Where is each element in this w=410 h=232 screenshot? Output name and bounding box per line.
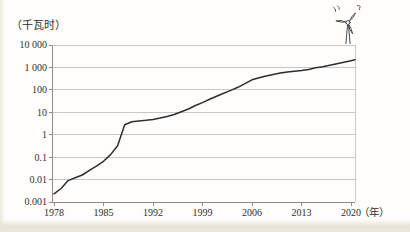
y-tick-label: 100 (32, 84, 47, 95)
chart-page: 10 0001 0001001010.10.010.00119781985199… (0, 0, 410, 232)
wind-turbine-icon (334, 6, 361, 44)
x-tick-label: 1992 (143, 207, 163, 218)
x-axis-unit-label: （年） (359, 206, 389, 218)
x-tick-label: 1999 (193, 207, 213, 218)
tick-labels: 10 0001 0001001010.10.010.00119781985199… (20, 39, 362, 218)
y-tick-label: 0.1 (35, 152, 48, 163)
x-tick-label: 2013 (292, 207, 312, 218)
y-tick-label: 1 (42, 129, 47, 140)
x-tick-label: 2006 (242, 207, 262, 218)
y-tick-label: 1 000 (25, 62, 48, 73)
x-tick-label: 2020 (341, 207, 361, 218)
x-tick-label: 1978 (44, 207, 64, 218)
data-curve (54, 60, 355, 194)
turbine-blade (336, 19, 346, 23)
y-tick-label: 0.01 (30, 174, 48, 185)
wind-power-line-chart: 10 0001 0001001010.10.010.00119781985199… (0, 0, 410, 232)
y-tick-label: 0.001 (25, 196, 48, 207)
y-tick-label: 10 000 (20, 39, 48, 50)
y-axis-unit-label: （千瓦时） (11, 19, 66, 31)
x-tick-label: 1985 (94, 207, 114, 218)
turbine-blade (349, 13, 357, 21)
y-tick-label: 10 (37, 107, 47, 118)
data-series (54, 60, 355, 194)
